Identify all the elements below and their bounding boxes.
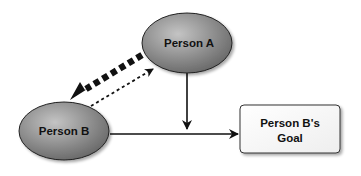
node-goal-label-line2: Goal [277,132,303,144]
node-goal-label-line1: Person B's [260,117,320,129]
edge-a-to-b-thick-dashed [70,55,142,100]
diagram-canvas: Person A Person B Person B's Goal [0,0,361,176]
node-person-a-label: Person A [164,37,214,49]
edge-b-to-a-dotted [91,69,153,106]
node-goal [240,105,340,153]
node-person-b-label: Person B [39,125,90,137]
